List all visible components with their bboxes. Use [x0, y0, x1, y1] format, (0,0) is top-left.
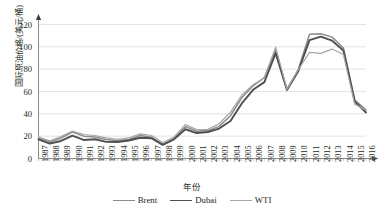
legend-item-dubai[interactable]: Dubai — [170, 196, 217, 205]
x-tick-label: 2005 — [245, 145, 253, 162]
x-tick-label: 1997 — [155, 145, 163, 162]
x-tick-label: 2000 — [189, 145, 197, 162]
x-tick-label: 2007 — [268, 145, 276, 162]
legend-label-wti: WTI — [255, 196, 272, 205]
x-tick-label: 2016 — [369, 145, 377, 162]
x-tick-label: 1988 — [53, 145, 61, 162]
x-tick-label: 1995 — [132, 145, 140, 162]
x-tick-label: 1987 — [42, 145, 50, 162]
x-tick-label: 2008 — [279, 145, 287, 162]
legend-label-brent: Brent — [138, 196, 158, 205]
x-tick-label: 2010 — [301, 145, 309, 162]
x-tick-label: 1999 — [177, 145, 185, 162]
x-tick-label: 2012 — [324, 145, 332, 162]
legend-item-wti[interactable]: WTI — [230, 196, 272, 205]
legend-swatch-wti — [230, 200, 252, 201]
x-tick-label: 1994 — [121, 145, 129, 162]
x-tick-label: 1998 — [166, 145, 174, 162]
x-tick-label: 2001 — [200, 145, 208, 162]
x-tick-label: 1993 — [109, 145, 117, 162]
x-tick-label: 2015 — [358, 145, 366, 162]
chart-legend: BrentDubaiWTI — [0, 196, 384, 205]
x-axis-title: 年份 — [0, 180, 384, 192]
x-tick-label: 2009 — [290, 145, 298, 162]
x-tick-label: 2002 — [211, 145, 219, 162]
x-tick-label: 2011 — [313, 146, 321, 162]
x-tick-label: 1990 — [76, 145, 84, 162]
legend-label-dubai: Dubai — [195, 196, 217, 205]
x-tick-label: 2006 — [256, 145, 264, 162]
legend-swatch-dubai — [170, 200, 192, 201]
x-tick-label: 2003 — [222, 145, 230, 162]
x-tick-label: 1991 — [87, 145, 95, 162]
x-tick-label: 1989 — [64, 145, 72, 162]
legend-item-brent[interactable]: Brent — [113, 196, 158, 205]
x-tick-label: 1996 — [143, 145, 151, 162]
x-tick-label: 2014 — [347, 145, 355, 162]
x-tick-label: 1992 — [98, 145, 106, 162]
x-tick-label: 2013 — [335, 145, 343, 162]
chart-figure: 国际原油价格/(美元/桶) 020406080100120 1987198819… — [0, 0, 384, 217]
legend-swatch-brent — [113, 200, 135, 201]
x-tick-label: 2004 — [234, 145, 242, 162]
